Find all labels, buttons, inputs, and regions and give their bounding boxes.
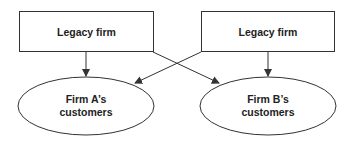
firm-b-label-line2: customers — [241, 106, 294, 118]
firm-b-label-line1: Firm B’s — [247, 93, 289, 105]
legacy-firm-left-label: Legacy firm — [57, 26, 116, 38]
firm-b-customers-ellipse: Firm B’s customers — [200, 77, 336, 135]
edge-legacy-left-to-firm-b — [153, 52, 219, 83]
firm-a-label-line1: Firm A’s — [66, 93, 107, 105]
legacy-firm-right-label: Legacy firm — [239, 26, 298, 38]
edge-legacy-right-to-firm-a — [135, 52, 201, 83]
legacy-firm-right-box: Legacy firm — [202, 12, 335, 52]
firm-a-label-line2: customers — [59, 106, 112, 118]
legacy-firm-left-box: Legacy firm — [20, 12, 154, 52]
firm-a-customers-ellipse: Firm A’s customers — [18, 77, 154, 135]
diagram-canvas: Legacy firm Legacy firm Firm A’s custome… — [0, 0, 350, 147]
